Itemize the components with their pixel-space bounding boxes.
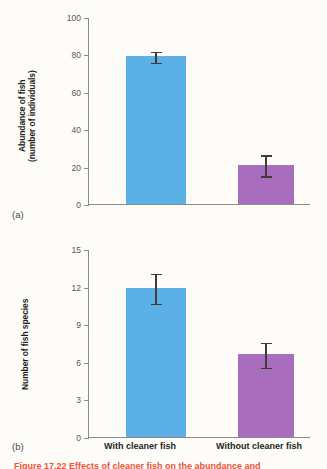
y-tick-label: 20 xyxy=(72,163,81,173)
error-bar-cap-upper xyxy=(151,274,162,276)
y-tick-label: 9 xyxy=(76,320,81,330)
panel-a-y-axis-line xyxy=(88,18,89,205)
y-tick-label: 3 xyxy=(76,395,81,405)
y-tick-label: 100 xyxy=(67,13,81,23)
panel-a-plot-area: 020406080100 xyxy=(88,18,310,205)
error-bar-cap-upper xyxy=(261,343,272,345)
y-tick-mark xyxy=(84,400,89,401)
error-bar-cap-lower xyxy=(151,304,162,306)
y-tick-mark xyxy=(84,250,89,251)
y-tick-mark xyxy=(84,363,89,364)
error-bar-cap-lower xyxy=(261,176,272,178)
y-tick-label: 0 xyxy=(76,433,81,443)
category-label-with-cleaner-fish: With cleaner fish xyxy=(85,441,195,451)
error-bar-line xyxy=(265,343,267,368)
y-tick-label: 0 xyxy=(76,200,81,210)
y-tick-mark xyxy=(84,205,89,206)
y-tick-label: 40 xyxy=(72,125,81,135)
bar-with-cleaner-fish xyxy=(126,288,186,437)
y-tick-label: 60 xyxy=(72,88,81,98)
y-tick-label: 80 xyxy=(72,50,81,60)
y-tick-label: 15 xyxy=(72,245,81,255)
error-bar-cap-lower xyxy=(261,368,272,370)
bar-with-cleaner-fish xyxy=(126,56,186,204)
error-bar-line xyxy=(265,155,267,176)
error-bar-cap-lower xyxy=(151,63,162,65)
panel-b-y-axis-line xyxy=(88,250,89,438)
category-label-without-cleaner-fish: Without cleaner fish xyxy=(198,441,320,451)
panel-b-label: (b) xyxy=(12,441,24,452)
error-bar-cap-upper xyxy=(151,52,162,54)
error-bar-line xyxy=(155,274,157,304)
y-tick-mark xyxy=(84,438,89,439)
panel-b-plot-area: 03691215 xyxy=(88,250,310,438)
panel-a-y-axis-title: Abundance of fish (number of individuals… xyxy=(17,36,39,196)
panel-a-label: (a) xyxy=(12,209,24,220)
y-tick-mark xyxy=(84,168,89,169)
error-bar-line xyxy=(155,52,157,63)
y-tick-mark xyxy=(84,93,89,94)
y-tick-mark xyxy=(84,130,89,131)
figure-caption: Figure 17.22 Effects of cleaner fish on … xyxy=(14,461,314,469)
y-tick-mark xyxy=(84,18,89,19)
panel-b-y-axis-title: Number of fish species xyxy=(20,268,34,420)
error-bar-cap-upper xyxy=(261,155,272,157)
y-tick-mark xyxy=(84,325,89,326)
y-tick-mark xyxy=(84,55,89,56)
figure-container: Abundance of fish (number of individuals… xyxy=(0,0,327,469)
y-tick-label: 6 xyxy=(76,358,81,368)
panel-a: Abundance of fish (number of individuals… xyxy=(0,0,327,232)
y-tick-label: 12 xyxy=(72,283,81,293)
y-tick-mark xyxy=(84,288,89,289)
